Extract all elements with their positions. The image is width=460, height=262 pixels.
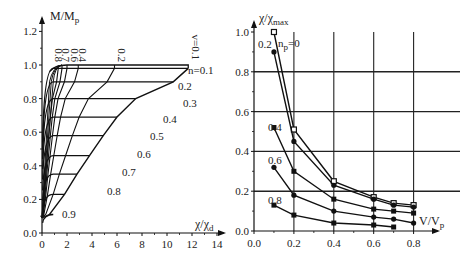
x-axis-arrow-icon [218, 230, 226, 236]
y-tick-label: 0.4 [23, 160, 37, 172]
data-point [411, 211, 416, 216]
n-label: 0.5 [150, 130, 164, 142]
data-point [371, 197, 376, 202]
y-tick-label: 0.0 [23, 227, 37, 239]
y-tick-label: 1.0 [23, 59, 37, 71]
data-point [271, 49, 276, 54]
x-tick-label: 2 [64, 238, 70, 250]
x-tick-label: 0.8 [407, 237, 421, 249]
n-label: 0.6 [137, 148, 151, 160]
data-point [271, 30, 276, 35]
x-tick-label: 8 [139, 238, 145, 250]
series-label: 0.2 [258, 38, 272, 50]
left-chart-moment-curvature: 0.00.20.40.60.81.01.202468101214M/Mpχ/χd… [23, 9, 226, 250]
v-label: v=0.1 [190, 35, 202, 60]
y-axis-arrow-icon [39, 16, 45, 24]
data-point [291, 213, 296, 218]
x-tick-label: 0.0 [247, 237, 261, 249]
series-label-np: np=0 [278, 37, 300, 52]
data-point [291, 139, 296, 144]
x-tick-label: 0.4 [327, 237, 341, 249]
series-label: 0.6 [268, 154, 282, 166]
x-tick-label: 12 [187, 238, 198, 250]
data-point [391, 209, 396, 214]
y-tick-label: 1.0 [235, 26, 249, 38]
y-tick-label: 0.2 [235, 185, 249, 197]
y-tick-label: 0.4 [235, 145, 249, 157]
y-tick-label: 0.8 [235, 66, 249, 78]
data-point [331, 183, 336, 188]
n-label: 0.7 [122, 166, 136, 178]
series-label: 0.4 [268, 121, 282, 133]
n-label: n=0.1 [188, 64, 213, 76]
n-label: 0.4 [163, 113, 177, 125]
y-tick-label: 0.2 [23, 193, 37, 205]
series-label: 0.8 [268, 194, 282, 206]
x-axis-title: V/Vp [419, 214, 445, 230]
x-tick-label: 6 [114, 238, 120, 250]
data-point [331, 221, 336, 226]
data-point [371, 207, 376, 212]
series-line [274, 32, 414, 205]
x-tick-label: 10 [162, 238, 174, 250]
n-label: 0.9 [62, 208, 76, 220]
data-point [411, 205, 416, 210]
y-axis-title: M/Mp [50, 9, 80, 25]
data-point [411, 220, 416, 225]
y-tick-label: 0.8 [23, 93, 37, 105]
n-label: 0.8 [107, 185, 121, 197]
data-point [331, 209, 336, 214]
x-tick-label: 0.6 [367, 237, 381, 249]
figure: 0.00.20.40.60.81.01.202468101214M/Mpχ/χd… [0, 0, 460, 262]
x-tick-label: 0 [39, 238, 45, 250]
y-axis-arrow-icon [251, 20, 257, 28]
x-axis-title: χ/χd [194, 217, 214, 233]
data-point [291, 193, 296, 198]
right-chart-curvature-ratio: 0.00.20.40.60.81.00.00.20.40.60.8χ/χmaxV… [235, 11, 460, 249]
v-label: 0.2 [116, 48, 128, 62]
v-label: 0.4 [77, 48, 89, 62]
n-label: 0.3 [183, 97, 197, 109]
x-tick-label: 4 [89, 238, 95, 250]
n-label: 0.2 [178, 80, 192, 92]
data-point [391, 225, 396, 230]
y-tick-label: 1.2 [23, 25, 37, 37]
data-point [331, 197, 336, 202]
y-tick-label: 0.6 [235, 106, 249, 118]
y-axis-title: χ/χmax [258, 11, 289, 27]
y-tick-label: 0.6 [23, 126, 37, 138]
data-point [371, 223, 376, 228]
data-point [391, 203, 396, 208]
data-point [391, 216, 396, 221]
y-tick-label: 0.0 [235, 225, 249, 237]
x-tick-label: 0.2 [287, 237, 301, 249]
x-tick-label: 14 [212, 238, 224, 250]
data-point [371, 214, 376, 219]
data-point [291, 169, 296, 174]
